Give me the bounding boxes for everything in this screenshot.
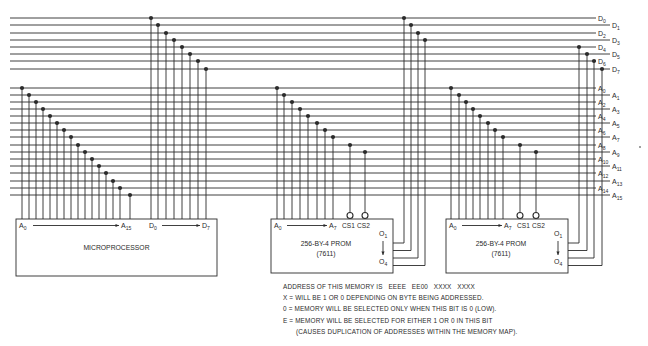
note-e-definition: E = MEMORY WILL BE SELECTED FOR EITHER 1… bbox=[283, 315, 517, 326]
prom-part-number: (7611) bbox=[491, 250, 510, 258]
junction-dot bbox=[493, 128, 497, 132]
junction-dot bbox=[69, 135, 73, 139]
microprocessor-block: A0A15D0D7MICROPROCESSOR bbox=[16, 16, 217, 276]
junction-dot bbox=[348, 143, 352, 147]
junction-dot bbox=[41, 107, 45, 111]
address-bus-label-a5: A5 bbox=[612, 120, 620, 129]
junction-dot bbox=[55, 121, 59, 125]
address-bus-label-a9: A9 bbox=[612, 149, 620, 158]
address-bus-label-a7: A7 bbox=[612, 134, 620, 143]
junction-dot bbox=[471, 107, 475, 111]
prom-part-number: (7611) bbox=[316, 250, 335, 258]
junction-dot bbox=[275, 86, 279, 90]
address-bus-label-a14: A14 bbox=[598, 185, 608, 194]
address-bus-label-a1: A1 bbox=[612, 92, 620, 101]
arrow-head-icon bbox=[324, 224, 328, 227]
data-bus-label-d4: D4 bbox=[598, 44, 606, 53]
junction-dot bbox=[90, 157, 94, 161]
address-bus-label-a15: A15 bbox=[612, 192, 622, 201]
junction-dot bbox=[62, 128, 66, 132]
junction-dot bbox=[27, 93, 31, 97]
prom-block-1: A0A7CS1CS2O1O4256-BY-4 PROM(7611) bbox=[271, 16, 427, 273]
active-low-bubble-icon bbox=[517, 213, 523, 219]
junction-dot bbox=[204, 67, 208, 71]
data-bus-label-d7: D7 bbox=[612, 66, 620, 75]
junction-dot bbox=[188, 52, 192, 56]
junction-dot bbox=[600, 67, 604, 71]
junction-dot bbox=[298, 107, 302, 111]
junction-dot bbox=[585, 52, 589, 56]
junction-dot bbox=[97, 164, 101, 168]
junction-dot bbox=[164, 31, 168, 35]
prom-label: 256-BY-4 PROM bbox=[301, 240, 352, 247]
junction-dot bbox=[363, 150, 367, 154]
junction-dot bbox=[48, 114, 52, 118]
cs1-label: CS1 bbox=[517, 222, 530, 229]
junction-dot bbox=[449, 86, 453, 90]
junction-dot bbox=[196, 59, 200, 63]
junction-dot bbox=[592, 59, 596, 63]
junction-dot bbox=[306, 114, 310, 118]
address-bus-label-a12: A12 bbox=[598, 170, 608, 179]
junction-dot bbox=[423, 38, 427, 42]
active-low-bubble-icon bbox=[362, 213, 368, 219]
output-end-label: O4 bbox=[554, 258, 562, 267]
junction-dot bbox=[457, 93, 461, 97]
cs2-label: CS2 bbox=[357, 222, 370, 229]
data-range-start-label: D0 bbox=[149, 222, 157, 231]
address-bus-label-a11: A11 bbox=[612, 163, 622, 172]
junction-dot bbox=[128, 193, 132, 197]
junction-dot bbox=[180, 45, 184, 49]
junction-dot bbox=[76, 143, 80, 147]
junction-dot bbox=[118, 186, 122, 190]
address-bus-label-a10: A10 bbox=[598, 156, 608, 165]
arrow-head-icon bbox=[197, 224, 201, 227]
addr-range-start-label: A0 bbox=[19, 222, 27, 231]
note-e-continuation: (CAUSES DUPLICATION OF ADDRESSES WITHIN … bbox=[283, 326, 517, 337]
junction-dot bbox=[331, 135, 335, 139]
microprocessor-label: MICROPROCESSOR bbox=[83, 244, 149, 251]
output-start-label: O1 bbox=[379, 230, 387, 239]
address-bus-label-a13: A13 bbox=[612, 178, 622, 187]
cs1-label: CS1 bbox=[342, 222, 355, 229]
junction-dot bbox=[464, 100, 468, 104]
junction-dot bbox=[104, 171, 108, 175]
junction-dot bbox=[83, 150, 87, 154]
output-end-label: O4 bbox=[379, 258, 387, 267]
stray-dot bbox=[639, 146, 641, 148]
arrow-head-icon bbox=[499, 224, 503, 227]
junction-dot bbox=[501, 135, 505, 139]
note-x-definition: X = WILL BE 1 OR 0 DEPENDING ON BYTE BEI… bbox=[283, 292, 517, 303]
data-range-end-label: D7 bbox=[202, 222, 210, 231]
junction-dot bbox=[478, 114, 482, 118]
data-bus-label-d3: D3 bbox=[612, 37, 620, 46]
junction-dot bbox=[290, 100, 294, 104]
junction-dot bbox=[282, 93, 286, 97]
prom-label: 256-BY-4 PROM bbox=[476, 240, 527, 247]
junction-dot bbox=[111, 179, 115, 183]
junction-dot bbox=[486, 121, 490, 125]
active-low-bubble-icon bbox=[347, 213, 353, 219]
data-bus-label-d0: D0 bbox=[598, 15, 606, 24]
note-address-line: ADDRESS OF THIS MEMORY IS EEEE EE00 XXXX… bbox=[283, 281, 517, 292]
address-note: ADDRESS OF THIS MEMORY IS EEEE EE00 XXXX… bbox=[283, 281, 517, 337]
cs2-label: CS2 bbox=[532, 222, 545, 229]
prom-addr-end-label: A7 bbox=[504, 222, 512, 231]
junction-dot bbox=[534, 150, 538, 154]
junction-dot bbox=[577, 45, 581, 49]
arrow-head-icon bbox=[556, 252, 559, 256]
data-bus-label-d5: D5 bbox=[612, 51, 620, 60]
junction-dot bbox=[409, 23, 413, 27]
active-low-bubble-icon bbox=[533, 213, 539, 219]
address-bus-label-a3: A3 bbox=[612, 106, 620, 115]
prom-addr-end-label: A7 bbox=[329, 222, 337, 231]
addr-range-end-label: A15 bbox=[121, 222, 131, 231]
junction-dot bbox=[323, 128, 327, 132]
junction-dot bbox=[149, 16, 153, 20]
data-bus-label-d6: D6 bbox=[598, 58, 606, 67]
data-bus-label-d1: D1 bbox=[612, 22, 620, 31]
junction-dot bbox=[402, 16, 406, 20]
junction-dot bbox=[315, 121, 319, 125]
prom-addr-start-label: A0 bbox=[274, 222, 282, 231]
junction-dot bbox=[34, 100, 38, 104]
